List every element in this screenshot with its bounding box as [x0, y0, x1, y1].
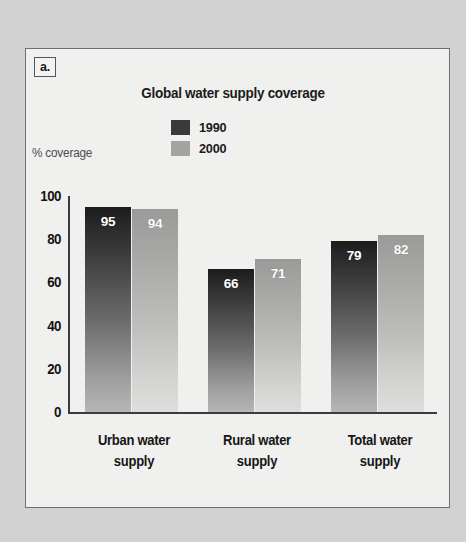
y-tick-40: 40 [23, 318, 61, 334]
y-tick-80: 80 [23, 231, 61, 247]
bar-value-urban-1990: 95 [85, 214, 131, 229]
y-axis-title: % coverage [32, 146, 92, 160]
y-axis-line [68, 196, 70, 413]
x-label-total: Total water supply [320, 430, 440, 472]
y-tick-60: 60 [23, 274, 61, 290]
bar-group-rural: 66 71 [208, 196, 318, 412]
bar-rural-2000: 71 [255, 259, 301, 412]
bar-value-rural-2000: 71 [255, 266, 301, 281]
y-tick-100: 100 [23, 188, 61, 204]
legend-item-2000: 2000 [171, 138, 291, 158]
figure-page: a. Global water supply coverage 1990 200… [0, 0, 466, 542]
x-label-urban-line2: supply [78, 451, 190, 472]
y-tick-20: 20 [23, 361, 61, 377]
x-axis-category-labels: Urban water supply Rural water supply To… [68, 430, 437, 490]
bar-total-2000: 82 [378, 235, 424, 412]
bar-value-total-1990: 79 [331, 248, 377, 263]
legend-label-1990: 1990 [199, 120, 226, 135]
bar-value-rural-1990: 66 [208, 276, 254, 291]
x-label-rural-line2: supply [201, 451, 313, 472]
bar-value-urban-2000: 94 [132, 216, 178, 231]
x-label-urban: Urban water supply [74, 430, 194, 472]
x-label-total-line2: supply [324, 451, 436, 472]
plot-area: 0 20 40 60 80 100 95 94 66 71 [68, 196, 437, 412]
legend-swatch-1990 [171, 120, 190, 135]
bar-rural-1990: 66 [208, 269, 254, 412]
x-label-total-line1: Total water [324, 430, 436, 451]
bar-total-1990: 79 [331, 241, 377, 412]
legend-swatch-2000 [171, 141, 190, 156]
bar-group-total: 79 82 [331, 196, 441, 412]
bar-urban-2000: 94 [132, 209, 178, 412]
x-label-rural-line1: Rural water [201, 430, 313, 451]
x-label-urban-line1: Urban water [78, 430, 190, 451]
x-label-rural: Rural water supply [197, 430, 317, 472]
y-tick-0: 0 [23, 404, 61, 420]
legend-label-2000: 2000 [199, 141, 226, 156]
bar-group-urban: 95 94 [85, 196, 195, 412]
x-axis-line [68, 412, 437, 414]
chart-legend: 1990 2000 [171, 117, 291, 159]
legend-item-1990: 1990 [171, 117, 291, 137]
bar-value-total-2000: 82 [378, 242, 424, 257]
y-axis-tick-labels: 0 20 40 60 80 100 [22, 196, 62, 412]
bar-urban-1990: 95 [85, 207, 131, 412]
panel-label-a: a. [34, 57, 56, 77]
chart-title: Global water supply coverage [16, 85, 449, 101]
